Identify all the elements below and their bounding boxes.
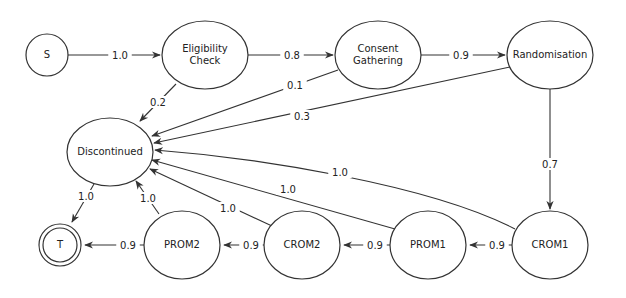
edge-prom1-to-crom2: 0.9 — [344, 239, 390, 251]
node-crom1: CROM1 — [512, 211, 588, 279]
edge-probability-label: 0.8 — [284, 50, 300, 61]
edge-probability-label: 0.9 — [367, 240, 383, 251]
edge-probability-label: 1.0 — [112, 50, 128, 61]
node-label: CROM2 — [284, 239, 321, 250]
edge-probability-label: 1.0 — [332, 167, 348, 178]
edge-s-to-ec: 1.0 — [68, 49, 160, 61]
node-label: S — [44, 49, 50, 60]
edge-arrow — [155, 150, 515, 229]
node-ec: EligibilityCheck — [162, 21, 248, 89]
node-label: PROM2 — [164, 239, 200, 250]
node-s: S — [26, 34, 68, 76]
edge-crom2-to-prom2: 0.9 — [224, 239, 264, 251]
node-cg: ConsentGathering — [335, 21, 421, 89]
edge-probability-label: 0.9 — [453, 50, 469, 61]
edge-crom1-to-d: 1.0 — [155, 150, 515, 229]
edge-crom1-to-prom1: 0.9 — [470, 239, 512, 251]
edge-prom2-to-d: 1.0 — [136, 181, 160, 214]
edge-ec-to-d: 0.2 — [140, 84, 176, 121]
edge-probability-label: 1.0 — [220, 203, 236, 214]
node-d: Discontinued — [67, 118, 153, 186]
edge-probability-label: 1.0 — [78, 191, 94, 202]
node-label: Eligibility — [182, 43, 228, 54]
node-label: PROM1 — [410, 239, 446, 250]
edge-ec-to-cg: 0.8 — [248, 49, 333, 61]
edge-probability-label: 0.3 — [294, 111, 310, 122]
node-label: CROM1 — [532, 239, 569, 250]
edge-probability-label: 0.2 — [150, 97, 166, 108]
node-label: Discontinued — [77, 146, 143, 157]
node-label: Check — [190, 55, 221, 66]
edge-probability-label: 0.1 — [287, 80, 303, 91]
node-label: Randomisation — [513, 49, 588, 60]
edge-d-to-t: 1.0 — [72, 184, 98, 222]
node-r: Randomisation — [507, 21, 593, 89]
node-prom2: PROM2 — [144, 211, 220, 279]
node-crom2: CROM2 — [264, 211, 340, 279]
edge-probability-label: 1.0 — [280, 184, 296, 195]
edge-r-to-crom1: 0.7 — [538, 89, 562, 209]
node-label: Gathering — [353, 55, 403, 66]
node-prom1: PROM1 — [390, 211, 466, 279]
edge-probability-label: 0.9 — [120, 240, 136, 251]
edge-probability-label: 0.9 — [243, 240, 259, 251]
edge-cg-to-r: 0.9 — [421, 49, 505, 61]
node-label: T — [56, 239, 64, 250]
edge-probability-label: 0.7 — [542, 159, 558, 170]
state-diagram: 1.00.80.90.20.10.30.71.01.01.01.01.00.90… — [0, 0, 626, 298]
edge-probability-label: 0.9 — [489, 240, 505, 251]
edge-probability-label: 1.0 — [140, 193, 156, 204]
node-label: Consent — [357, 43, 398, 54]
node-t: T — [39, 224, 81, 266]
edge-prom2-to-t: 0.9 — [85, 239, 144, 251]
